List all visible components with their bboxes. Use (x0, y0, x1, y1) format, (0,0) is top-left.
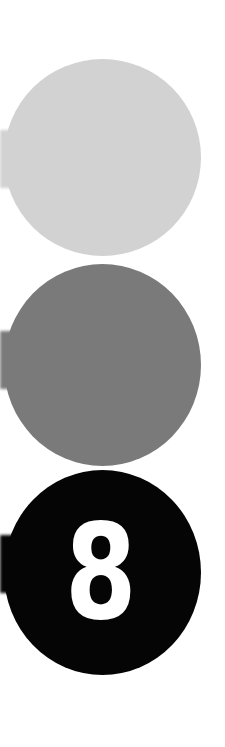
circle-middle (4, 264, 201, 466)
circle-bottom: 8 (4, 470, 201, 675)
number-eight-label: 8 (65, 506, 137, 638)
circle-top (4, 59, 201, 256)
